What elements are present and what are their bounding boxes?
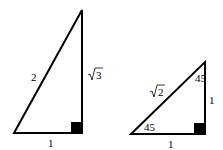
hypotenuse-label: 2: [31, 71, 37, 83]
hypotenuse-label-sqrt2: 2: [150, 85, 165, 98]
triangle-45-45-90-outline: [131, 62, 205, 134]
diagram-canvas: 2 1 3 2 45 45 1 1: [0, 0, 223, 150]
height-radicand: 3: [96, 69, 102, 81]
height-label: 1: [209, 94, 215, 106]
hypotenuse-radicand: 2: [158, 86, 164, 98]
right-angle-marker: [194, 123, 205, 134]
triangle-45-45-90: 2 45 45 1 1: [131, 62, 215, 150]
angle-top-label: 45: [195, 72, 207, 84]
triangle-30-60-90-outline: [14, 10, 82, 133]
height-label-sqrt3: 3: [88, 68, 103, 81]
angle-bottom-left-label: 45: [144, 121, 156, 133]
right-angle-marker: [71, 122, 82, 133]
base-label: 1: [48, 137, 54, 149]
triangle-30-60-90: 2 1 3: [14, 10, 103, 149]
base-label: 1: [168, 138, 174, 150]
